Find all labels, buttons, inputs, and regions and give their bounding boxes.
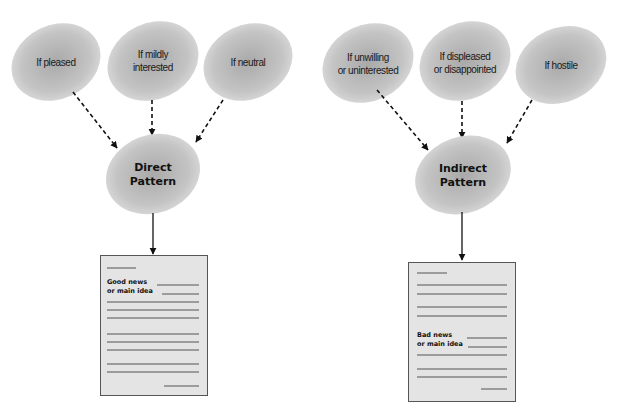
dashed-arrow (507, 100, 532, 143)
condition-if-pleased: If pleased (0, 9, 113, 115)
pattern-label-line1: Direct (134, 161, 172, 174)
dashed-arrow (377, 90, 428, 150)
condition-if-neutral: If neutral (191, 9, 306, 115)
dashed-arrow (196, 100, 223, 142)
condition-if-displeased: If displeased or disappointed (406, 7, 523, 116)
document-text-line2: or main idea (107, 287, 153, 295)
condition-label-line2: interested (133, 62, 173, 73)
condition-if-mildly-interested: If mildly interested (94, 7, 211, 116)
condition-label-line2: or uninterested (338, 65, 399, 76)
document-text-line2: or main idea (417, 340, 463, 348)
document-bad-news: Bad news or main idea (409, 263, 516, 402)
document-good-news: Good news or main idea (101, 256, 208, 396)
document-text-line1: Good news (107, 278, 147, 286)
condition-label-line1: If displeased (440, 51, 491, 62)
dashed-arrow (73, 92, 117, 148)
condition-label: If pleased (36, 57, 75, 68)
pattern-label-line2: Pattern (440, 176, 486, 189)
condition-if-unwilling: If unwilling or uninterested (309, 9, 426, 118)
indirect-pattern-node: Indirect Pattern (404, 123, 522, 228)
condition-label-line1: If mildly (138, 49, 169, 60)
condition-label-line1: If unwilling (347, 52, 389, 63)
document-text-line1: Bad news (417, 331, 452, 339)
pattern-label-line2: Pattern (130, 175, 176, 188)
right-diagram: If unwilling or uninterested If displeas… (309, 7, 619, 402)
direct-pattern-node: Direct Pattern (95, 121, 212, 227)
diagram-canvas: If pleased If mildly interested If neutr… (0, 0, 623, 417)
condition-label-line2: or disappointed (434, 64, 496, 75)
left-diagram: If pleased If mildly interested If neutr… (0, 7, 305, 396)
pattern-label-line1: Indirect (439, 162, 487, 175)
condition-label: If hostile (544, 60, 578, 71)
condition-label: If neutral (231, 57, 266, 68)
condition-if-hostile: If hostile (503, 12, 619, 119)
